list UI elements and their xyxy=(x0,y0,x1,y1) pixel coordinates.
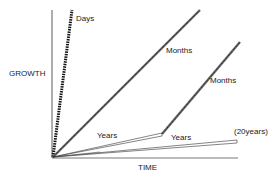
label-years-1: Years xyxy=(97,132,117,140)
x-axis-label: TIME xyxy=(138,164,157,172)
years-line-2 xyxy=(53,140,237,157)
label-days: Days xyxy=(76,15,94,23)
months-line-2-hatch xyxy=(162,42,240,134)
days-line xyxy=(53,10,72,157)
y-axis-label: GROWTH xyxy=(9,70,45,78)
growth-diagram xyxy=(0,0,279,178)
label-years-2: Years xyxy=(171,134,191,142)
label-twenty-years: (20years) xyxy=(234,128,268,136)
label-months-1: Months xyxy=(166,47,192,55)
years-line-2-b xyxy=(53,143,237,157)
label-months-2: Months xyxy=(210,77,236,85)
